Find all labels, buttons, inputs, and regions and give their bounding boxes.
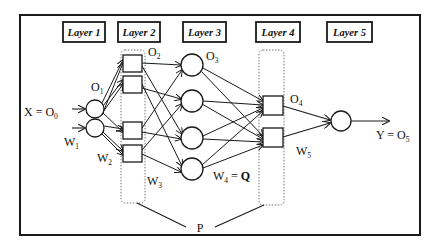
outer-frame [20, 15, 420, 235]
w4-label: W4 = Q [213, 169, 250, 185]
layer-label-1: Layer 1 [63, 22, 105, 42]
o2-label: O2 [148, 45, 161, 61]
diagram-canvas: Layer 1 Layer 2 Layer 3 Layer 4 Layer 5 [0, 0, 437, 246]
layer-label-text: Layer 2 [122, 27, 157, 38]
layer-label-4: Layer 4 [256, 22, 300, 42]
layer-label-text: Layer 5 [332, 27, 366, 38]
connections-l2-l3 [142, 63, 182, 172]
node-square [123, 76, 142, 93]
w2-label: W2 [97, 151, 112, 167]
connections-l3-l4 [202, 68, 263, 168]
layer-4-nodes [263, 96, 283, 147]
o4-label: O4 [290, 92, 303, 108]
layer-3-nodes [181, 54, 203, 180]
p-label: P [197, 221, 204, 235]
node-square [123, 55, 142, 72]
input-label: X = O0 [24, 105, 58, 121]
layer-label-3: Layer 3 [183, 22, 226, 42]
output-label: Y = O5 [376, 128, 410, 144]
node-square [123, 145, 142, 162]
input-connections [72, 109, 85, 128]
layer-2-nodes [123, 55, 142, 162]
node-circle [181, 158, 203, 180]
layer-1-nodes [86, 100, 104, 137]
connections-l1-l2 [102, 60, 123, 155]
node-circle [181, 54, 203, 76]
layer-label-2: Layer 2 [118, 22, 160, 42]
node-circle [181, 90, 203, 112]
connections-l4-l5 [283, 106, 330, 137]
w3-label: W3 [147, 174, 162, 190]
o3-label: O3 [206, 49, 219, 65]
node-square [263, 96, 283, 115]
layer-label-text: Layer 4 [261, 27, 295, 38]
node-square [263, 128, 283, 147]
node-circle [86, 100, 104, 118]
node-circle [181, 127, 203, 149]
w1-label: W1 [64, 135, 79, 151]
layer-label-5: Layer 5 [327, 22, 372, 42]
o1-label: O1 [91, 80, 104, 96]
layer-5-node [331, 111, 351, 131]
w5-label: W5 [296, 144, 311, 160]
layer-label-text: Layer 1 [67, 27, 101, 38]
node-square [123, 122, 142, 139]
node-circle [86, 119, 104, 137]
layer-label-text: Layer 3 [187, 27, 221, 38]
